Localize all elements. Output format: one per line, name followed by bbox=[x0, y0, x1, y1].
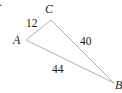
vertex-label-c: C bbox=[45, 2, 54, 16]
side-length-ac: 12 bbox=[26, 17, 38, 29]
vertex-label-b: B bbox=[115, 78, 122, 92]
problem-number-fragment: . bbox=[0, 0, 2, 8]
side-length-cb: 40 bbox=[80, 35, 92, 47]
vertex-label-a: A bbox=[12, 33, 21, 47]
triangle-diagram: . A C B 12 40 44 bbox=[0, 0, 122, 93]
triangle-abc bbox=[26, 20, 114, 83]
side-length-ab: 44 bbox=[52, 63, 64, 75]
